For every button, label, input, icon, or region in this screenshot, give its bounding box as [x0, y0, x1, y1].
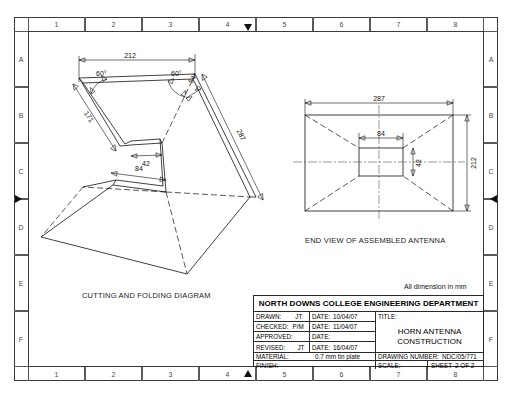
center-mark-top: [244, 24, 252, 31]
checked-label: CHECKED:: [256, 323, 289, 330]
lower-right-edge: [187, 197, 250, 274]
material-value: 0.7 mm tin plate: [300, 353, 375, 360]
revised-date-label: DATE:: [312, 344, 330, 351]
zone-label-column-7: 7: [370, 17, 427, 31]
fold-line-lower: [166, 192, 187, 274]
material-label: MATERIAL:: [254, 353, 300, 360]
lower-left-edge: [41, 185, 113, 237]
angle-arrow-left-a: [91, 88, 96, 95]
zone-label-row-E: E: [484, 255, 498, 311]
zone-label-column-3: 3: [142, 17, 199, 31]
throat-edge-outer-top: [131, 143, 162, 145]
cutting-diagram-caption: CUTTING AND FOLDING DIAGRAM: [82, 291, 211, 300]
zone-label-column-3: 3: [142, 367, 199, 381]
dim-outer-width: 287: [373, 95, 385, 102]
zone-label-column-7: 7: [370, 367, 427, 381]
cut-edge-right-outer: [195, 74, 256, 197]
checked-value: P/M: [293, 323, 304, 330]
dim-inner-width: 84: [377, 130, 385, 137]
center-mark-bottom: [244, 370, 252, 377]
zone-label-row-D: D: [14, 199, 28, 255]
finish-label: FINISH:: [254, 361, 376, 369]
zone-label-row-C: C: [14, 143, 28, 199]
zone-label-row-E: E: [14, 255, 28, 311]
zone-label-column-1: 1: [28, 17, 85, 31]
dim-left-angle: 60°: [96, 70, 107, 77]
end-view-fold-bl: [305, 176, 359, 211]
drawing-number-value: NDC/05/771: [442, 353, 477, 360]
end-view-fold-br: [403, 176, 453, 211]
drawing-number-label: DRAWING NUMBER:: [378, 353, 439, 360]
title-block-signoff-table: DRAWN: JT DATE: 10/04/07 CHECKED: P/M DA…: [254, 312, 376, 352]
drawn-date: 10/04/07: [333, 313, 358, 320]
fold-line-left-corner: [41, 187, 83, 237]
title-block-title-area: TITLE: HORN ANTENNA CONSTRUCTION: [376, 312, 483, 352]
zone-label-column-5: 5: [256, 17, 313, 31]
end-view-caption: END VIEW OF ASSEMBLED ANTENNA: [305, 236, 445, 245]
dim-right-side: 287: [236, 128, 247, 142]
cut-edge-left-bottom-inner: [125, 141, 131, 144]
table-row: DRAWN: JT DATE: 10/04/07: [254, 312, 375, 322]
zone-label-row-A: A: [14, 31, 28, 87]
title-label: TITLE:: [376, 312, 483, 321]
drawn-label: DRAWN:: [256, 313, 281, 320]
dimension-note: All dimension in mm: [404, 283, 467, 290]
fold-line-upper-right: [162, 79, 193, 143]
zone-label-column-2: 2: [85, 367, 142, 381]
end-view-fold-tr: [403, 115, 453, 148]
drawing-sheet: 12345678 12345678 ABCDEF ABCDEF: [0, 0, 513, 398]
zone-label-column-6: 6: [313, 367, 370, 381]
dim-corner-angle: 54°: [187, 72, 199, 85]
title-block: NORTH DOWNS COLLEGE ENGINEERING DEPARTME…: [253, 295, 484, 367]
revised-label: REVISED:: [256, 344, 285, 351]
revised-date: 16/04/07: [333, 344, 358, 351]
table-row: REVISED: JT DATE: 16/04/07: [254, 342, 375, 352]
end-view-fold-tl: [305, 115, 359, 148]
lower-band-outer: [113, 185, 166, 192]
table-row: APPROVED: DATE:: [254, 332, 375, 342]
dim-inner-height: 42: [415, 159, 422, 167]
approved-label: APPROVED:: [256, 333, 293, 340]
finish-row: FINISH: SCALE: SHEET 2 OF 2: [254, 361, 483, 369]
dim-right-angle: 60°: [171, 70, 182, 77]
fold-line-mid-right: [166, 192, 250, 197]
drawing-title-line2: CONSTRUCTION: [397, 337, 461, 347]
zone-label-row-B: B: [14, 87, 28, 143]
cut-edge-left-bottom-cap: [120, 145, 131, 146]
drawn-date-label: DATE:: [312, 313, 330, 320]
drawing-title-line1: HORN ANTENNA: [398, 327, 462, 337]
angle-arc-left: [91, 79, 107, 94]
angle-54-leader: [186, 89, 201, 98]
angle-arc-right: [168, 81, 185, 97]
dim-throat-small: 42: [142, 160, 150, 167]
lower-bottom-edge: [41, 237, 187, 274]
dim-left-side: 171: [83, 110, 95, 124]
title-block-department: NORTH DOWNS COLLEGE ENGINEERING DEPARTME…: [254, 296, 483, 312]
sheet-label: SHEET: [431, 362, 452, 369]
revised-value: JT: [297, 344, 304, 351]
scale-label: SCALE:: [378, 362, 400, 369]
center-mark-left: [15, 195, 22, 203]
zone-label-column-2: 2: [85, 17, 142, 31]
zone-label-column-5: 5: [256, 367, 313, 381]
zone-label-column-8: 8: [427, 17, 484, 31]
dim-throat-large: 84: [135, 165, 143, 172]
throat-edge-inner-top: [131, 139, 160, 141]
lower-band-inner: [116, 180, 163, 186]
zone-label-row-F: F: [484, 311, 498, 367]
drawn-value: JT: [295, 313, 302, 320]
cutting-folding-drawing: 212 60° 60° 54° 171 287 42: [35, 52, 285, 292]
checked-date: 11/04/07: [333, 323, 357, 330]
dim-84-line: [111, 173, 166, 180]
sheet-value: 2 OF 2: [455, 362, 474, 369]
end-view-drawing: 287 212 84 42: [295, 95, 495, 245]
zone-label-column-8: 8: [427, 367, 484, 381]
dim-top-width: 212: [124, 52, 136, 59]
zone-label-row-F: F: [14, 311, 28, 367]
table-row: CHECKED: P/M DATE: 11/04/07: [254, 322, 375, 332]
zone-label-column-1: 1: [28, 367, 85, 381]
zone-label-row-A: A: [484, 31, 498, 87]
zone-label-column-6: 6: [313, 17, 370, 31]
dim-42-line: [131, 155, 162, 156]
material-row: MATERIAL: 0.7 mm tin plate DRAWING NUMBE…: [254, 352, 483, 361]
